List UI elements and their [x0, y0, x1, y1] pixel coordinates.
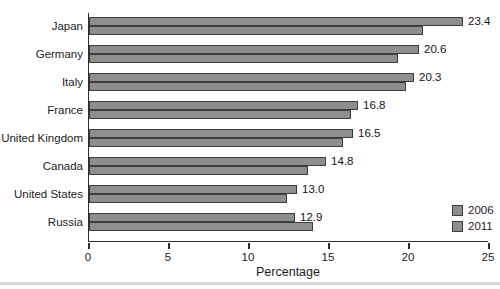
x-tick-mark [248, 243, 250, 249]
x-tick-label: 10 [236, 251, 260, 263]
category-label-germany: Germany [0, 47, 83, 61]
bar-2011-japan [89, 17, 463, 26]
bar-2011-united-kingdom [89, 129, 353, 138]
bar-2006-russia [89, 222, 313, 231]
category-label-canada: Canada [0, 159, 83, 173]
value-label-united-kingdom: 16.5 [358, 128, 380, 139]
x-tick-mark [88, 243, 90, 249]
category-label-united-kingdom: United Kingdom [0, 131, 83, 145]
bar-2006-germany [89, 54, 398, 63]
x-tick-mark [488, 243, 490, 249]
legend-label-2011: 2011 [468, 220, 493, 233]
legend-swatch-2011-icon [452, 221, 463, 232]
bar-2011-france [89, 101, 358, 110]
category-label-japan: Japan [0, 19, 83, 33]
value-label-germany: 20.6 [424, 44, 446, 55]
bar-2006-italy [89, 82, 406, 91]
legend-label-2006: 2006 [468, 204, 494, 217]
x-tick-mark [328, 243, 330, 249]
x-tick-label: 25 [476, 251, 500, 263]
bar-2006-france [89, 110, 351, 119]
value-label-italy: 20.3 [419, 72, 441, 83]
page-divider-rule [0, 282, 500, 285]
bar-2011-italy [89, 73, 414, 82]
x-tick-label: 0 [76, 251, 100, 263]
x-tick-mark [168, 243, 170, 249]
category-label-russia: Russia [0, 215, 83, 229]
bar-2011-canada [89, 157, 326, 166]
value-label-russia: 12.9 [300, 212, 322, 223]
x-tick-label: 5 [156, 251, 180, 263]
value-label-japan: 23.4 [468, 16, 490, 27]
chart-canvas: Percentage 2006 2011 Japan23.4Germany20.… [0, 0, 500, 289]
bar-2006-canada [89, 166, 308, 175]
category-label-italy: Italy [0, 75, 83, 89]
bar-2011-russia [89, 213, 295, 222]
x-tick-mark [408, 243, 410, 249]
value-label-france: 16.8 [363, 100, 385, 111]
x-axis-title: Percentage [88, 265, 488, 279]
bar-2006-united-states [89, 194, 287, 203]
value-label-canada: 14.8 [331, 156, 353, 167]
category-label-united-states: United States [0, 187, 83, 201]
category-label-france: France [0, 103, 83, 117]
bar-2011-germany [89, 45, 419, 54]
legend: 2006 2011 [452, 204, 494, 236]
value-label-united-states: 13.0 [302, 184, 324, 195]
bar-2006-japan [89, 26, 423, 35]
bar-2011-united-states [89, 185, 297, 194]
bar-2006-united-kingdom [89, 138, 343, 147]
legend-item-2006: 2006 [452, 204, 494, 217]
legend-swatch-2006-icon [452, 205, 463, 216]
legend-item-2011: 2011 [452, 220, 494, 233]
x-tick-label: 20 [396, 251, 420, 263]
x-tick-label: 15 [316, 251, 340, 263]
